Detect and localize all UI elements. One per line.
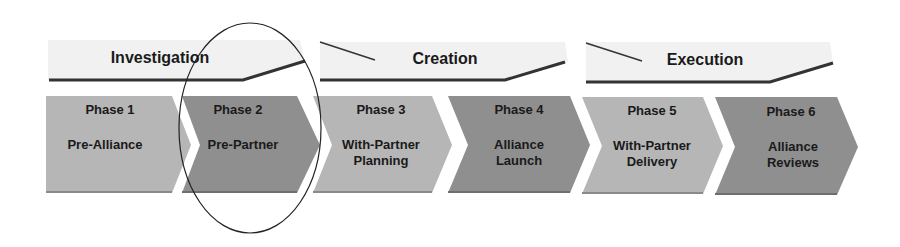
phase-4-number: Phase 4 <box>469 102 569 117</box>
phase-5-name: With-Partner Delivery <box>592 138 712 170</box>
phase-3-number: Phase 3 <box>331 102 431 117</box>
phase-5-number: Phase 5 <box>602 103 702 118</box>
phase-1-name: Pre-Alliance <box>45 137 165 153</box>
phase-6-number: Phase 6 <box>741 104 841 119</box>
phase-4-name: Alliance Launch <box>469 137 569 169</box>
phase-diagram <box>0 0 900 247</box>
phase-2-number: Phase 2 <box>188 102 288 117</box>
phase-2-name: Pre-Partner <box>188 137 298 153</box>
stage-label-investigation: Investigation <box>90 49 230 67</box>
phase-6-name: Alliance Reviews <box>743 139 843 171</box>
stage-label-creation: Creation <box>385 50 505 68</box>
stage-label-execution: Execution <box>640 51 770 69</box>
phase-3-name: With-Partner Planning <box>321 137 441 169</box>
phase-1-number: Phase 1 <box>60 102 160 117</box>
